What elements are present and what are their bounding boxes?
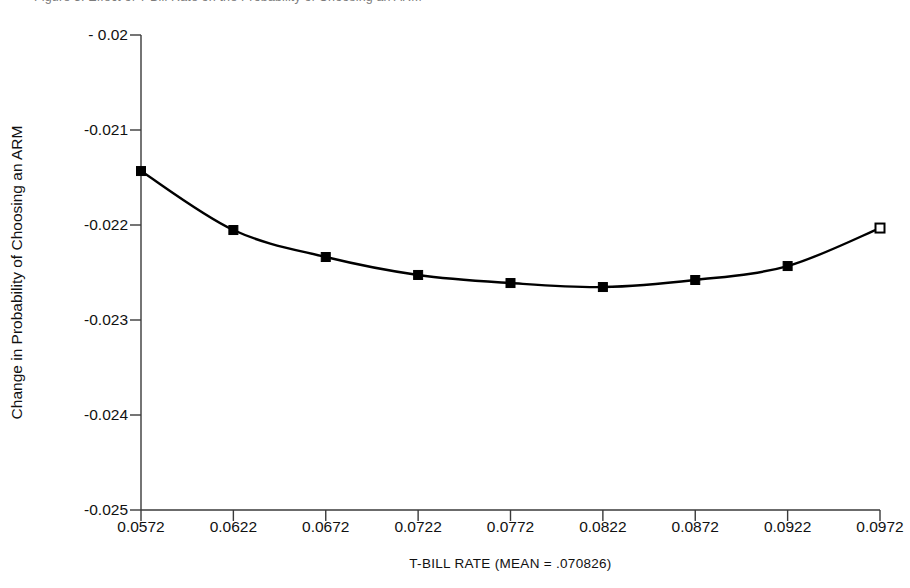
data-point-marker (414, 270, 423, 279)
axis-lines (141, 35, 880, 510)
data-point-marker (783, 262, 792, 271)
data-point-marker (876, 224, 885, 233)
data-point-marker (229, 226, 238, 235)
plot-area (0, 0, 910, 588)
y-axis-tick-marks (130, 35, 141, 510)
x-axis-tick-marks (141, 510, 880, 521)
data-point-marker (691, 276, 700, 285)
data-series-line (141, 171, 880, 287)
data-point-marker (137, 167, 146, 176)
data-point-marker (321, 253, 330, 262)
figure-chart-change-in-probability-vs-tbill-rate: Figure 3. Effect of T-Bill Rate on the P… (0, 0, 910, 588)
data-point-marker (506, 279, 515, 288)
data-series-markers (137, 167, 885, 292)
data-point-marker (598, 283, 607, 292)
